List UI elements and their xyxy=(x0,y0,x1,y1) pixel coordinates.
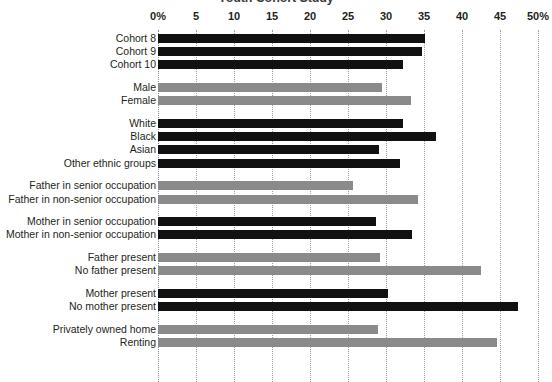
bar xyxy=(158,34,425,43)
bar-row: Mother present xyxy=(0,289,552,300)
bar-row: Father present xyxy=(0,253,552,264)
x-axis-tick-50: 50% xyxy=(527,10,549,22)
bar xyxy=(158,159,400,168)
bar xyxy=(158,230,412,239)
bar-row-label: No mother present xyxy=(0,300,156,312)
bar-row-label: No father present xyxy=(0,264,156,276)
bar xyxy=(158,253,380,262)
bar xyxy=(158,217,376,226)
x-axis-tick-40: 40 xyxy=(456,10,468,22)
bar-row: Cohort 10 xyxy=(0,60,552,71)
x-axis-tick-20: 20 xyxy=(304,10,316,22)
bar xyxy=(158,338,497,347)
x-axis-tick-15: 15 xyxy=(266,10,278,22)
x-axis-tick-5: 5 xyxy=(193,10,199,22)
x-axis-tick-30: 30 xyxy=(380,10,392,22)
bar-row-label: Asian xyxy=(0,143,156,155)
bar-chart: Youth Cohort Study 0%5101520253035404550… xyxy=(0,0,552,382)
bar xyxy=(158,289,388,298)
bar-row: Mother in non-senior occupation xyxy=(0,230,552,241)
bar-row-label: Renting xyxy=(0,336,156,348)
bar xyxy=(158,132,436,141)
x-axis-tick-0: 0% xyxy=(150,10,166,22)
bar-row: Father in non-senior occupation xyxy=(0,195,552,206)
bar-row: Other ethnic groups xyxy=(0,159,552,170)
bar-row: Mother in senior occupation xyxy=(0,217,552,228)
bar xyxy=(158,195,418,204)
bar-row-label: Mother in senior occupation xyxy=(0,215,156,227)
bar-row: Renting xyxy=(0,338,552,349)
bar-row-label: Female xyxy=(0,94,156,106)
chart-title: Youth Cohort Study xyxy=(0,0,552,5)
bar xyxy=(158,96,411,105)
bar-row-label: Male xyxy=(0,81,156,93)
bar xyxy=(158,60,403,69)
bar-rows: Cohort 8Cohort 9Cohort 10MaleFemaleWhite… xyxy=(0,30,552,382)
bar xyxy=(158,325,378,334)
bar-row-label: Other ethnic groups xyxy=(0,157,156,169)
x-axis-tick-labels: 0%5101520253035404550% xyxy=(0,10,552,26)
bar-row: Father in senior occupation xyxy=(0,181,552,192)
bar xyxy=(158,47,422,56)
bar-row: Cohort 8 xyxy=(0,34,552,45)
bar xyxy=(158,145,379,154)
bar-row-label: White xyxy=(0,117,156,129)
x-axis-tick-10: 10 xyxy=(228,10,240,22)
bar-row: Male xyxy=(0,83,552,94)
x-axis-tick-25: 25 xyxy=(342,10,354,22)
bar-row: Female xyxy=(0,96,552,107)
x-axis-tick-45: 45 xyxy=(494,10,506,22)
bar xyxy=(158,83,382,92)
bar-row: Asian xyxy=(0,145,552,156)
bar-row-label: Cohort 8 xyxy=(0,32,156,44)
bar xyxy=(158,181,353,190)
bar-row-label: Cohort 9 xyxy=(0,45,156,57)
bar-row-label: Father present xyxy=(0,251,156,263)
x-axis-tick-35: 35 xyxy=(418,10,430,22)
bar-row: Privately owned home xyxy=(0,325,552,336)
bar-row: No father present xyxy=(0,266,552,277)
bar-row-label: Father in non-senior occupation xyxy=(0,193,156,205)
bar xyxy=(158,119,403,128)
bar-row-label: Mother in non-senior occupation xyxy=(0,228,156,240)
bar-row: White xyxy=(0,119,552,130)
bar xyxy=(158,266,481,275)
bar-row-label: Privately owned home xyxy=(0,323,156,335)
bar-row-label: Black xyxy=(0,130,156,142)
bar-row-label: Mother present xyxy=(0,287,156,299)
bar-row: Cohort 9 xyxy=(0,47,552,58)
bar xyxy=(158,302,518,311)
bar-row: Black xyxy=(0,132,552,143)
bar-row: No mother present xyxy=(0,302,552,313)
bar-row-label: Cohort 10 xyxy=(0,58,156,70)
bar-row-label: Father in senior occupation xyxy=(0,179,156,191)
